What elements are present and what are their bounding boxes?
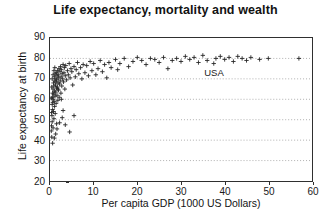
chart-title: Life expectancy, mortality and wealth bbox=[0, 3, 331, 17]
y-tick-label: 60 bbox=[23, 94, 45, 104]
x-tick-label: 60 bbox=[301, 187, 325, 197]
x-tick-mark bbox=[269, 182, 270, 185]
y-tick-label: 40 bbox=[23, 136, 45, 146]
y-tick-label: 70 bbox=[23, 73, 45, 83]
scatter-points bbox=[50, 38, 312, 181]
y-tick-label: 90 bbox=[23, 32, 45, 42]
y-tick-label: 30 bbox=[23, 156, 45, 166]
x-tick-mark bbox=[225, 182, 226, 185]
chart-figure: Life expectancy, mortality and wealth Li… bbox=[0, 0, 331, 217]
plot-area bbox=[49, 37, 313, 182]
x-tick-label: 40 bbox=[213, 187, 237, 197]
x-tick-mark bbox=[181, 182, 182, 185]
x-axis-label: Per capita GDP (1000 US Dollars) bbox=[49, 197, 313, 209]
y-tick-label: 20 bbox=[23, 177, 45, 187]
x-tick-mark bbox=[49, 182, 50, 185]
x-tick-label: 20 bbox=[125, 187, 149, 197]
x-tick-mark bbox=[313, 182, 314, 185]
x-tick-label: 30 bbox=[169, 187, 193, 197]
x-tick-label: 10 bbox=[81, 187, 105, 197]
y-axis-ticks: 2030405060708090 bbox=[21, 37, 45, 182]
y-tick-label: 80 bbox=[23, 53, 45, 63]
x-tick-mark bbox=[137, 182, 138, 185]
x-tick-mark bbox=[93, 182, 94, 185]
y-tick-label: 50 bbox=[23, 115, 45, 125]
x-tick-label: 50 bbox=[257, 187, 281, 197]
x-tick-label: 0 bbox=[37, 187, 61, 197]
